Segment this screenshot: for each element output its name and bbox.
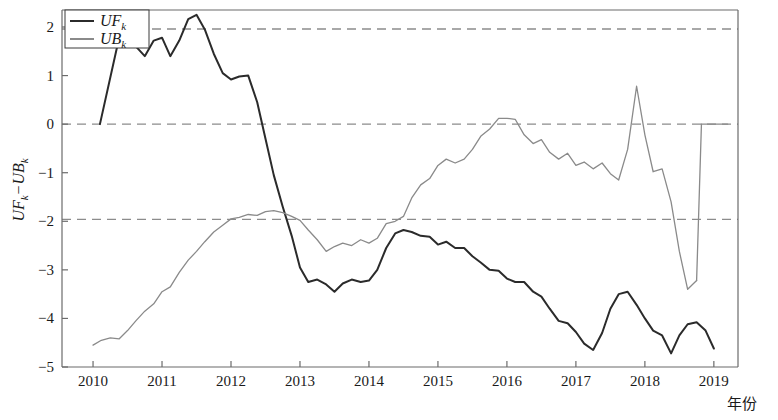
legend-ubk-main: UB bbox=[100, 30, 122, 47]
x-tick-label-8: 2018 bbox=[630, 373, 660, 389]
ylabel-first-main: UF bbox=[10, 200, 27, 222]
x-axis-label: 年份 bbox=[727, 396, 757, 412]
x-tick-label-1: 2011 bbox=[147, 373, 176, 389]
x-tick-label-7: 2017 bbox=[561, 373, 592, 389]
y-tick-label-6: −4 bbox=[38, 310, 54, 326]
x-tick-label-4: 2014 bbox=[354, 373, 385, 389]
x-tick-label-6: 2016 bbox=[492, 373, 523, 389]
x-tick-label-5: 2015 bbox=[423, 373, 453, 389]
y-tick-label-0: 2 bbox=[47, 19, 55, 35]
y-tick-label-7: −5 bbox=[38, 359, 54, 375]
x-tick-label-0: 2010 bbox=[78, 373, 108, 389]
y-tick-label-2: 0 bbox=[47, 116, 55, 132]
ylabel-second-main: UB bbox=[10, 163, 27, 185]
y-tick-label-5: −3 bbox=[38, 262, 54, 278]
chart-canvas: 2010201120122013201420152016201720182019… bbox=[0, 0, 778, 420]
legend-ufk-main: UF bbox=[100, 12, 122, 29]
mann-kendall-chart-figure: 2010201120122013201420152016201720182019… bbox=[0, 0, 778, 420]
x-tick-label-3: 2013 bbox=[285, 373, 315, 389]
y-tick-label-4: −2 bbox=[38, 213, 54, 229]
x-tick-label-9: 2019 bbox=[699, 373, 729, 389]
x-tick-label-2: 2012 bbox=[216, 373, 246, 389]
ylabel-dash: − bbox=[10, 185, 27, 196]
y-tick-label-1: 1 bbox=[47, 68, 55, 84]
xlabel-text: 年份 bbox=[727, 396, 757, 412]
y-tick-label-3: −1 bbox=[38, 165, 54, 181]
plot-background bbox=[0, 0, 778, 420]
chart-legend: UFk UBk bbox=[65, 10, 149, 50]
